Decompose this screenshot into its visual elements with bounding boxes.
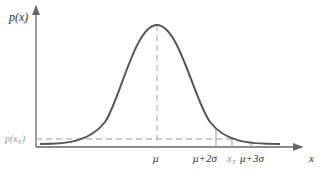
tick-label-mu-2sigma: μ+2σ	[192, 152, 217, 164]
normal-distribution-diagram: p(x) p(xT) μ μ+2σ xT μ+3σ x	[0, 0, 322, 170]
tick-label-xT: xT	[226, 152, 237, 166]
threshold-label: p(xT)	[4, 133, 26, 146]
tick-label-mu-3sigma: μ+3σ	[239, 152, 264, 164]
gaussian-curve	[40, 25, 280, 144]
x-axis-label: x	[308, 152, 314, 164]
tick-label-mu: μ	[152, 152, 159, 164]
y-axis-label: p(x)	[8, 10, 28, 24]
